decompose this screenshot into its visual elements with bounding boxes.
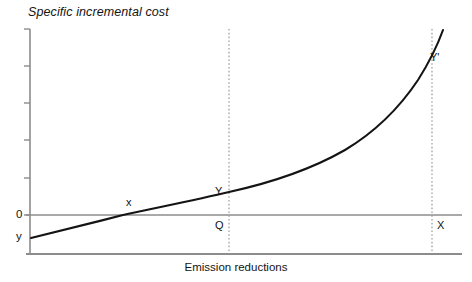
y-axis-ticks: [24, 29, 30, 215]
point-label-Y: Y: [215, 185, 222, 197]
point-label-Q: Q: [215, 219, 224, 231]
chart-figure: Specific incremental cost 0 y x Y Q X Y'…: [0, 0, 472, 282]
y-axis-zero-label: 0: [16, 208, 22, 220]
point-label-X: X: [437, 219, 444, 231]
y-axis-low-label: y: [16, 230, 22, 242]
curve-zero-crossing-label: x: [126, 196, 132, 208]
x-axis-label: Emission reductions: [0, 261, 472, 273]
chart-title: Specific incremental cost: [28, 5, 169, 19]
cost-curve: [31, 30, 443, 238]
point-label-Y-prime: Y': [430, 51, 439, 63]
chart-plot-area: [0, 0, 472, 282]
